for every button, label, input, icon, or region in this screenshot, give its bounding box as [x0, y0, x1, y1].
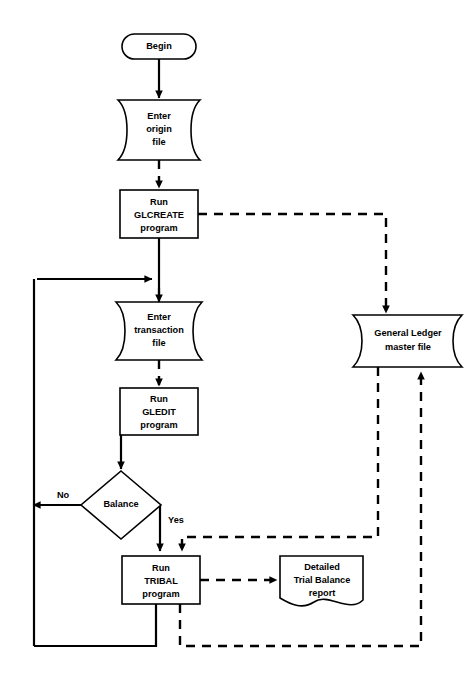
node-begin-label: Begin: [146, 41, 172, 51]
node-run-glcreate-line3: program: [140, 223, 177, 233]
node-enter-transaction-file-line2: transaction: [134, 325, 184, 335]
connector-glcreate-to-gl-master: [198, 214, 386, 313]
node-balance-decision: Balance: [81, 471, 161, 539]
flowchart-svg: Begin Enter origin file Run GLCREATE pro…: [0, 0, 473, 680]
node-run-glcreate-line1: Run: [150, 197, 168, 207]
connector-tribal-bottom-to-left-rail: [34, 604, 156, 646]
node-gl-master-file: General Ledger master file: [353, 315, 462, 367]
node-balance-decision-label: Balance: [103, 499, 138, 509]
node-run-gledit-line2: GLEDIT: [142, 407, 176, 417]
node-enter-transaction-file-line1: Enter: [147, 312, 171, 322]
node-run-tribal: Run TRIBAL program: [122, 556, 200, 604]
node-trial-balance-report-line3: report: [309, 588, 336, 598]
node-run-gledit-line3: program: [140, 420, 177, 430]
node-trial-balance-report-line2: Trial Balance: [294, 575, 351, 585]
node-run-glcreate-line2: GLCREATE: [134, 210, 184, 220]
node-trial-balance-report-line1: Detailed: [304, 562, 340, 572]
node-enter-transaction-file: Enter transaction file: [116, 302, 202, 360]
node-enter-origin-file: Enter origin file: [118, 100, 200, 160]
node-enter-origin-file-line3: file: [152, 137, 165, 147]
node-trial-balance-report: Detailed Trial Balance report: [280, 556, 363, 606]
node-enter-origin-file-line1: Enter: [147, 111, 171, 121]
node-enter-transaction-file-line3: file: [152, 338, 165, 348]
node-begin: Begin: [122, 34, 196, 59]
node-run-gledit-line1: Run: [150, 394, 168, 404]
edge-label-yes: Yes: [168, 515, 184, 525]
node-run-gledit: Run GLEDIT program: [120, 388, 198, 435]
node-run-glcreate: Run GLCREATE program: [120, 190, 198, 238]
edge-label-no: No: [57, 490, 70, 500]
connector-gledit-to-balance: [121, 434, 159, 469]
node-enter-origin-file-line2: origin: [146, 124, 172, 134]
node-run-tribal-line3: program: [142, 589, 179, 599]
flowchart-canvas: Begin Enter origin file Run GLCREATE pro…: [0, 0, 473, 680]
node-gl-master-file-line1: General Ledger: [374, 328, 442, 338]
node-run-tribal-line2: TRIBAL: [144, 576, 178, 586]
node-run-tribal-line1: Run: [152, 563, 170, 573]
connector-gl-master-to-tribal: [182, 367, 378, 551]
node-gl-master-file-line2: master file: [385, 342, 431, 352]
